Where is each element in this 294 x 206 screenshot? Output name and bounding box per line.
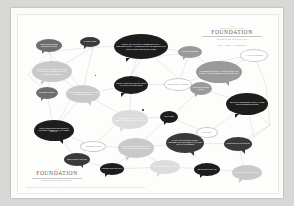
speech-bubble: WE BUILD STRONGER NEIGHBOURHOODS <box>36 39 62 52</box>
speech-bubble-tail <box>121 93 125 97</box>
speech-bubble-text: VOLUNTEER HOURS <box>85 146 100 148</box>
header-logo: THE SOCIETY OF SHARED FOUNDATION CONNECT… <box>195 25 269 46</box>
speech-bubble-text: NEW FUNDS LAUNCHED <box>67 159 86 161</box>
speech-bubble: NEW FUNDS LAUNCHED <box>64 153 90 166</box>
speech-bubble: STORIES FROM THE YEAR <box>100 163 124 175</box>
speech-bubble-tail <box>241 150 245 154</box>
speech-bubble-tail <box>246 61 249 64</box>
speech-bubble-text: A YEAR OF LISTENING <box>245 55 263 57</box>
speech-bubble-text: GET IN TOUCH WITH US <box>198 169 217 171</box>
speech-bubble-tail <box>126 157 130 161</box>
speech-bubble-text: WE FUND SMALL ORGANISATIONS DOING EXTRAO… <box>34 68 70 74</box>
speech-bubble-tail <box>59 140 63 144</box>
speech-bubble-tail <box>120 128 124 132</box>
poster-plate: WE BUILD STRONGER NEIGHBOURHOODSSHARED V… <box>17 14 279 194</box>
speech-bubble-text: GRANTS MADE 2014 <box>39 92 55 94</box>
speech-bubble: PARTNERSHIP IS NOT A PROGRAMME, IT IS TH… <box>196 61 242 83</box>
speech-bubble-tail <box>195 94 198 97</box>
footer-logo-divider <box>32 178 82 179</box>
annual-report-label: 2014 ANNUAL REPORT <box>195 44 269 46</box>
speech-bubble: VOLUNTEER HOURS <box>80 141 106 152</box>
speech-bubble: WE MEASURE SUCCESS BY WHAT STAYS BEHIND … <box>118 138 154 158</box>
speech-bubble-tail <box>105 174 108 177</box>
speech-bubble: FROM FOOD BANKS TO FOOTBALL PITCHES, FUN… <box>34 120 74 141</box>
speech-bubble-tail <box>170 90 173 93</box>
speech-bubble-tail <box>225 82 229 86</box>
footer-logo-tagline: CONNECTING COMMUNITIES <box>26 179 88 181</box>
speech-bubble-text: PARTNERSHIP IS NOT A PROGRAMME, IT IS TH… <box>198 70 240 74</box>
speech-bubble-text: READ MORE <box>202 132 211 134</box>
speech-bubble-text: LOCAL IDEAS FIRST <box>182 51 198 53</box>
speech-bubble-text: SMALL GRANTS BIG IMPACT <box>192 87 210 91</box>
speech-bubble-tail <box>41 98 44 101</box>
speech-bubble: GET IN TOUCH WITH US <box>194 163 220 176</box>
speech-bubble-tail <box>183 57 186 60</box>
speech-bubble: HOW WE SPEND EVERY POUND <box>150 160 180 174</box>
speech-bubble-text: TRUST TAKES TIME AND WE ARE IN THIS FOR … <box>116 83 146 87</box>
footer-logo: THE FOUNDATION CONNECTING COMMUNITIES <box>26 168 88 181</box>
speech-bubble-text: HOW WE SPEND EVERY POUND <box>152 166 177 168</box>
speech-bubble-text: THANK YOU TO EVERY DONOR, TRUSTEE AND VO… <box>168 140 202 146</box>
speech-bubble-tail <box>235 114 239 118</box>
speech-bubble: WE FUND SMALL ORGANISATIONS DOING EXTRAO… <box>32 61 72 82</box>
speech-bubble: LOCAL IDEAS FIRST <box>178 46 202 58</box>
speech-bubble-tail <box>87 102 91 106</box>
speech-bubble-text: A COMMUNITY THAT TALKS TO ITSELF IS A CO… <box>114 118 146 122</box>
speech-bubble-text: STORIES FROM THE YEAR <box>102 168 122 170</box>
logo-divider <box>202 36 261 37</box>
speech-bubble: SMALL GRANTS BIG IMPACT <box>190 82 212 95</box>
speech-bubble-text: WE MEASURE SUCCESS BY WHAT STAYS BEHIND … <box>120 146 152 150</box>
speech-bubble: WE BACK THE PEOPLE WHO STAY WHEN THE HEA… <box>226 93 268 115</box>
speech-bubble-tail <box>126 58 130 62</box>
speech-bubble-tail <box>239 179 243 183</box>
speech-bubble-text: SHARED VOICES <box>84 41 97 43</box>
speech-bubble-tail <box>157 173 161 177</box>
speech-bubble: SHARED VOICES <box>80 37 100 47</box>
speech-bubble-text: EVERY GRANT WE MAKE BEGINS WITH A CONVER… <box>116 43 166 49</box>
speech-bubble-text: LOOKING AHEAD TO NEXT YEAR <box>234 172 260 174</box>
speech-bubble: A YEAR OF LISTENING <box>240 49 268 62</box>
speech-bubble-tail <box>164 122 167 125</box>
logo-tagline: CONNECTING COMMUNITIES <box>195 38 269 40</box>
speech-bubble-text: WE BACK THE PEOPLE WHO STAY WHEN THE HEA… <box>228 102 266 106</box>
speech-bubble: TOGETHER WE GO FURTHER <box>224 137 252 151</box>
speech-bubble-tail <box>42 51 45 54</box>
speech-bubble: YOUNG PEOPLE LEADING CHANGE IN THEIR OWN… <box>66 85 100 103</box>
speech-bubble: GRANTS MADE 2014 <box>36 87 58 99</box>
speech-bubble-text: TOGETHER WE GO FURTHER <box>226 143 249 145</box>
speech-bubble-tail <box>84 46 87 49</box>
speech-bubble-tail <box>190 152 194 156</box>
speech-bubble-text: OPEN TO NEW PARTNERS <box>168 84 189 86</box>
speech-bubble-tail <box>41 81 45 85</box>
speech-bubble-text: OUR VALUES <box>164 116 174 118</box>
speech-bubble: LOOKING AHEAD TO NEXT YEAR <box>232 165 262 180</box>
speech-bubble-text: FROM FOOD BANKS TO FOOTBALL PITCHES, FUN… <box>36 128 72 134</box>
speech-bubble: THANK YOU TO EVERY DONOR, TRUSTEE AND VO… <box>166 133 204 153</box>
speech-bubble: A COMMUNITY THAT TALKS TO ITSELF IS A CO… <box>112 110 148 129</box>
speech-bubble-text: WE BUILD STRONGER NEIGHBOURHOODS <box>38 44 60 48</box>
speech-bubble: TRUST TAKES TIME AND WE ARE IN THIS FOR … <box>114 76 148 94</box>
speech-bubble-text: YOUNG PEOPLE LEADING CHANGE IN THEIR OWN… <box>68 92 98 96</box>
speech-bubble: OPEN TO NEW PARTNERS <box>164 78 192 91</box>
speech-bubble: EVERY GRANT WE MAKE BEGINS WITH A CONVER… <box>114 34 168 59</box>
footer-fine-print: The Foundation Annual Report 2014 · For … <box>26 186 226 188</box>
logo-wordmark: FOUNDATION <box>195 30 269 36</box>
footer-logo-wordmark: FOUNDATION <box>26 171 88 177</box>
poster-page: WE BUILD STRONGER NEIGHBOURHOODSSHARED V… <box>11 8 283 198</box>
speech-bubble: OUR VALUES <box>160 111 178 123</box>
speech-bubble-tail <box>200 175 203 178</box>
